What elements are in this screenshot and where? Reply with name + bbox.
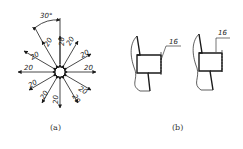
- svg-text:20: 20: [84, 64, 93, 72]
- svg-text:20: 20: [79, 48, 91, 60]
- left-dimension-label: 16: [169, 38, 178, 46]
- diagram-canvas: 30° 20 20 20 20 20 20 20 20 20 20 20 20 …: [0, 0, 243, 149]
- figure-a-caption: (a): [50, 123, 61, 132]
- svg-text:20: 20: [43, 36, 55, 48]
- svg-text:20: 20: [24, 64, 33, 72]
- figure-a-labels: 30° 20 20 20 20 20 20 20 20 20 20 20 20: [24, 12, 93, 105]
- figure-b-caption: (b): [172, 123, 183, 132]
- svg-text:20: 20: [70, 93, 82, 105]
- figure-b-right-part: [193, 34, 230, 90]
- svg-text:20: 20: [52, 95, 60, 104]
- svg-text:20: 20: [39, 89, 51, 101]
- svg-text:20: 20: [27, 78, 39, 90]
- svg-text:20: 20: [65, 35, 77, 47]
- angle-label: 30°: [40, 12, 52, 20]
- right-dimension-label: 16: [218, 29, 227, 37]
